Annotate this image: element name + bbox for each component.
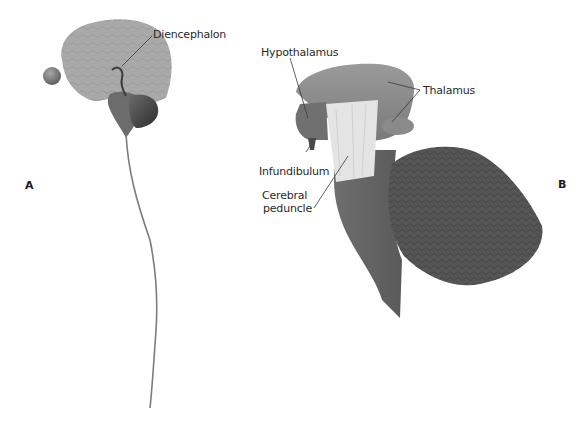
panel-label-a: A — [25, 179, 34, 192]
spinal-cord — [126, 134, 157, 408]
eyeball-shape — [43, 67, 61, 85]
label-diencephalon: Diencephalon — [153, 28, 226, 41]
label-thalamus: Thalamus — [423, 84, 475, 97]
label-cerebral-peduncle-line2: peduncle — [263, 202, 312, 215]
hypothalamus-shape — [296, 102, 328, 140]
panel-label-b: B — [558, 178, 566, 191]
infundibulum-leader-line — [306, 146, 310, 152]
label-hypothalamus: Hypothalamus — [261, 46, 338, 59]
infundibulum-shape — [308, 138, 316, 150]
label-infundibulum: Infundibulum — [259, 165, 329, 178]
thalamus-lobe-shape — [382, 117, 414, 135]
panel-a-brain-illustration — [43, 19, 172, 408]
label-cerebral-peduncle-line1: Cerebral — [262, 189, 307, 202]
panel-b-brainstem-illustration — [290, 58, 542, 318]
